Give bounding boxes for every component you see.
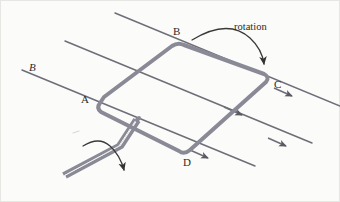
loop-lead-junction <box>137 118 139 120</box>
figure-border <box>1 1 340 202</box>
label-vertex-c: C <box>274 79 281 90</box>
label-vertex-d: D <box>183 157 191 168</box>
diagram-svg <box>0 0 340 202</box>
label-rotation: rotation <box>234 22 267 33</box>
label-magnetic-field: B <box>29 62 36 73</box>
label-vertex-b: B <box>173 26 180 37</box>
figure-container: B C A D B rotation <box>0 0 340 202</box>
label-vertex-a: A <box>81 94 89 105</box>
